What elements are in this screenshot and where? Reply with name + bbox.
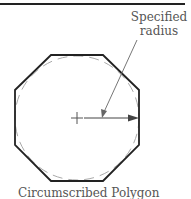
specified-radius-label: Specified radius — [128, 10, 190, 38]
figure-caption: Circumscribed Polygon — [18, 186, 159, 199]
diagram-canvas: Specified radius Circumscribed Polygon — [0, 0, 191, 199]
leader-line — [104, 40, 137, 112]
label-line-1: Specified — [128, 10, 190, 24]
label-line-2: radius — [128, 24, 190, 38]
arrowhead-icon — [128, 115, 139, 122]
leader-arrow-icon — [101, 109, 107, 118]
center-mark-icon — [71, 112, 83, 124]
